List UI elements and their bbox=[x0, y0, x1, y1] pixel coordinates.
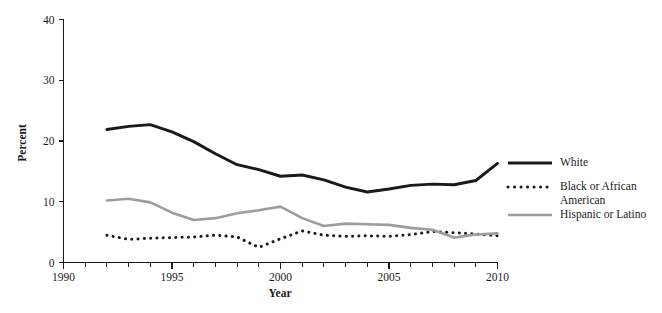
legend-label: Hispanic or Latino bbox=[560, 208, 646, 221]
legend-item-black-or-african-american: Black or AfricanAmerican bbox=[508, 180, 637, 206]
legend-item-hispanic-or-latino: Hispanic or Latino bbox=[508, 208, 646, 221]
y-tick-label: 0 bbox=[49, 257, 55, 269]
x-tick-label: 2005 bbox=[378, 271, 401, 283]
legend-item-white: White bbox=[508, 156, 588, 168]
y-axis-title: Percent bbox=[16, 124, 28, 162]
x-tick-label: 1990 bbox=[52, 271, 75, 283]
y-tick-label: 10 bbox=[43, 196, 55, 208]
series-line-white bbox=[107, 125, 498, 192]
legend-label: White bbox=[560, 156, 588, 168]
legend-label: American bbox=[560, 194, 606, 206]
x-axis-ticks bbox=[64, 263, 498, 269]
line-chart: 010203040 19901995200020052010 Percent Y… bbox=[0, 0, 662, 313]
chart-legend: WhiteBlack or AfricanAmericanHispanic or… bbox=[508, 156, 646, 221]
data-series-group bbox=[107, 125, 498, 248]
y-axis-tick-labels: 010203040 bbox=[43, 14, 55, 269]
x-tick-label: 1995 bbox=[161, 271, 184, 283]
x-axis-title: Year bbox=[269, 287, 292, 299]
y-tick-label: 30 bbox=[43, 74, 55, 86]
y-tick-label: 40 bbox=[43, 14, 55, 26]
chart-container: 010203040 19901995200020052010 Percent Y… bbox=[0, 0, 662, 313]
x-tick-label: 2010 bbox=[486, 271, 509, 283]
y-axis-ticks bbox=[59, 20, 64, 263]
x-tick-label: 2000 bbox=[269, 271, 292, 283]
legend-label: Black or African bbox=[560, 180, 637, 192]
y-tick-label: 20 bbox=[43, 135, 55, 147]
x-axis-tick-labels: 19901995200020052010 bbox=[52, 271, 509, 283]
